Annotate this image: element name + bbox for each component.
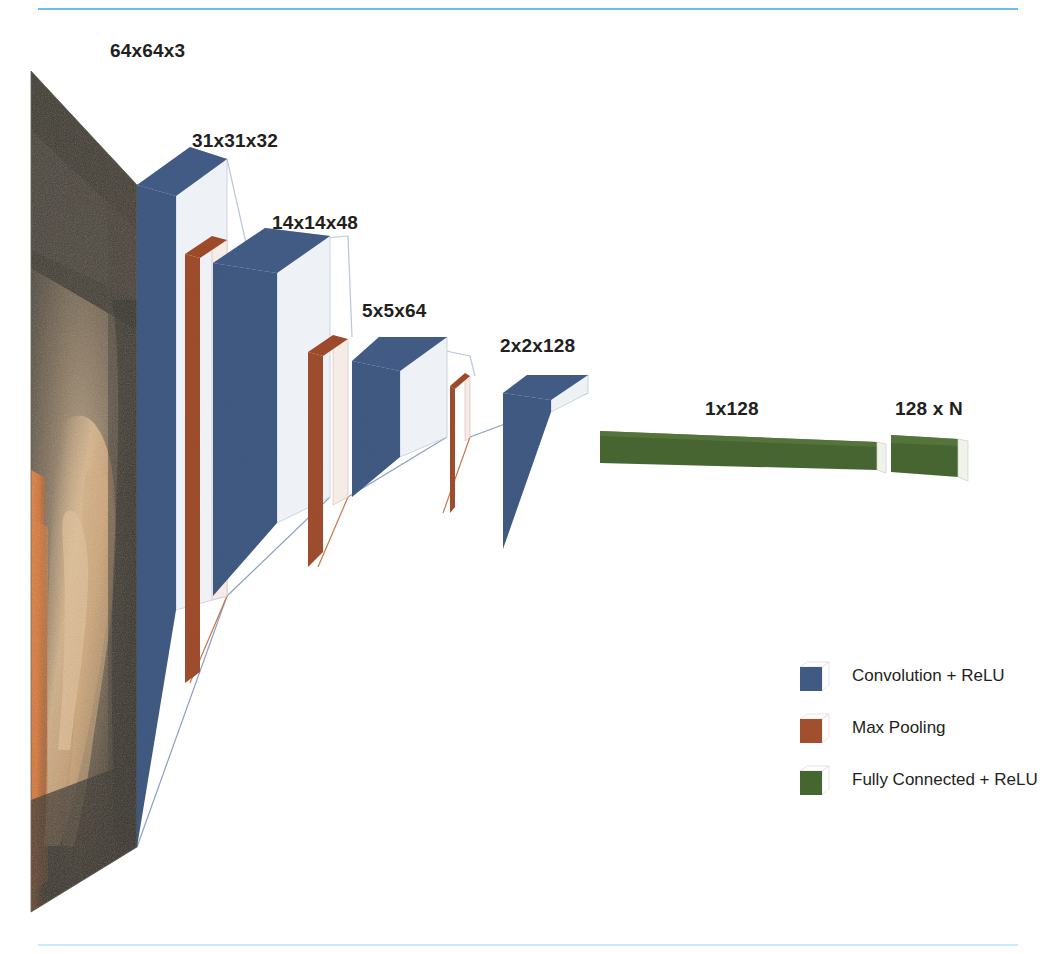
dim-label-conv3: 5x5x64 xyxy=(362,300,427,322)
legend-item-convolution: Convolution + ReLU xyxy=(800,650,1040,702)
legend-item-max-pooling: Max Pooling xyxy=(800,702,1040,754)
dim-label-input: 64x64x3 xyxy=(110,40,185,62)
layer-fc2 xyxy=(891,435,968,481)
legend-item-fully-connected: Fully Connected + ReLU xyxy=(800,754,1040,806)
legend-label-max-pooling: Max Pooling xyxy=(852,718,946,738)
dim-label-conv4: 2x2x128 xyxy=(500,335,575,357)
legend: Convolution + ReLU Max Pooling xyxy=(800,650,1040,806)
layer-fc1 xyxy=(600,431,886,473)
dim-label-fc2: 128 x N xyxy=(895,398,963,420)
legend-label-fully-connected: Fully Connected + ReLU xyxy=(852,770,1038,790)
architecture-canvas xyxy=(0,0,1050,954)
dim-label-conv1: 31x31x32 xyxy=(192,130,278,152)
legend-swatch-convolution-icon xyxy=(800,661,830,691)
layer-conv3 xyxy=(352,337,447,497)
legend-label-convolution: Convolution + ReLU xyxy=(852,666,1005,686)
layer-pool3 xyxy=(450,373,470,513)
layer-conv4 xyxy=(503,375,588,549)
dim-label-conv2: 14x14x48 xyxy=(272,212,358,234)
dim-label-fc1: 1x128 xyxy=(705,398,759,420)
legend-swatch-fully-connected-icon xyxy=(800,765,830,795)
input-image-plane xyxy=(25,60,150,920)
cnn-architecture-diagram: 64x64x3 31x31x32 14x14x48 5x5x64 2x2x128… xyxy=(0,0,1050,954)
legend-swatch-max-pooling-icon xyxy=(800,713,830,743)
